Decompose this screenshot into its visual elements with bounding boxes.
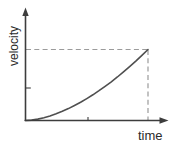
y-axis-label: velocity bbox=[7, 26, 21, 66]
y-axis-arrowhead-icon bbox=[22, 8, 28, 17]
velocity-curve bbox=[26, 50, 149, 121]
velocity-time-graph: velocity time bbox=[0, 0, 187, 147]
x-axis-arrowhead-icon bbox=[160, 117, 169, 124]
x-axis-label: time bbox=[138, 128, 163, 143]
graph-canvas bbox=[0, 0, 187, 147]
